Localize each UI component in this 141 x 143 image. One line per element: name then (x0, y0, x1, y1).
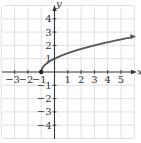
y-tick-label: 2 (45, 40, 51, 51)
y-tick-label: 4 (45, 13, 51, 24)
y-axis-label: y (55, 0, 62, 9)
x-tick-label: 1 (65, 74, 71, 85)
y-tick-label: −2 (37, 93, 52, 104)
function-graph: −3−2−1123454321−1−2−3−4 x y (0, 0, 141, 143)
y-tick-label: −3 (37, 106, 52, 117)
y-tick-label: 3 (45, 27, 51, 38)
start-point-dot (39, 70, 43, 74)
y-tick-label: −4 (37, 120, 52, 131)
x-tick-label: 4 (105, 74, 111, 85)
curve-arrow-icon (130, 34, 136, 39)
axes (2, 5, 137, 139)
x-tick-label: 5 (118, 74, 124, 85)
y-tick-label: −1 (37, 80, 52, 91)
x-axis-label: x (137, 66, 141, 77)
x-tick-label: 2 (78, 74, 84, 85)
curve-sqrt-x-plus-1 (39, 34, 136, 74)
x-tick-label: 3 (91, 74, 97, 85)
